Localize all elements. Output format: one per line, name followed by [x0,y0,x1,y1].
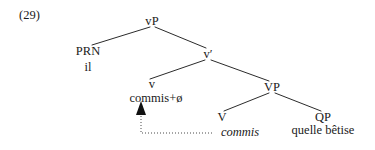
branch-vP-PRN [92,27,150,45]
syntax-tree-diagram: (29) vP PRN v′ v VP V QP il commis+ø que… [0,0,375,150]
node-VP: VP [264,81,280,94]
node-PRN: PRN [76,45,101,58]
branch-vbar-VP [211,60,269,81]
node-vP: vP [145,15,158,28]
branch-VP-QP [275,93,321,111]
branch-vbar-v [150,60,205,79]
node-v: v [149,78,155,91]
branch-vP-vbar [155,27,206,48]
terminal-commis-zero: commis+ø [130,92,183,105]
node-V: V [217,111,226,124]
trace-commis: commis [221,126,259,139]
branch-VP-V [224,93,269,111]
head-movement-arrow [136,101,212,133]
node-v-bar: v′ [203,48,212,61]
terminal-quelle-betise: quelle bêtise [292,124,355,137]
terminal-il: il [85,61,92,74]
branch-group [92,27,321,111]
